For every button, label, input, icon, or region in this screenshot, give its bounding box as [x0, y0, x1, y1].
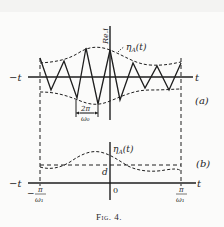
panel-a-neg-t-label: −t	[9, 72, 22, 83]
right-tick-denominator: ω₁	[176, 196, 185, 204]
panel-a-label: (a)	[195, 95, 209, 106]
panel-a-y-axis-label: Re.i	[101, 28, 110, 45]
panel-b-label: (b)	[196, 158, 210, 169]
panel-b-curve-label: ηA(t)	[113, 144, 134, 155]
origin-label: 0	[113, 186, 118, 195]
period-label-denominator: ω₀	[81, 115, 90, 123]
right-tick-numerator: π	[178, 186, 184, 194]
level-d-label: d	[102, 167, 108, 177]
envelope-leader-line	[118, 47, 124, 52]
left-tick-denominator: ω₁	[35, 196, 44, 204]
figure-caption: Fig. 4.	[96, 212, 122, 222]
envelope-label: ηA(t)	[126, 42, 147, 53]
panel-a: −t t Re.i ηA(t) 2π ω₀ (a)	[9, 26, 209, 123]
period-label-numerator: 2π	[80, 105, 90, 113]
left-tick-numerator: π	[37, 186, 43, 194]
page-bleed	[0, 0, 224, 12]
panel-b: ηA(t) d −t t 0 − π ω₁ π ω₁ (b)	[9, 142, 210, 204]
panel-a-t-label: t	[195, 72, 200, 83]
figure-canvas: −t t Re.i ηA(t) 2π ω₀ (a) ηA(t) d −t	[0, 0, 224, 227]
panel-b-neg-t-label: −t	[9, 178, 22, 189]
panel-b-t-label: t	[197, 178, 202, 189]
left-tick-minus: −	[27, 188, 35, 198]
